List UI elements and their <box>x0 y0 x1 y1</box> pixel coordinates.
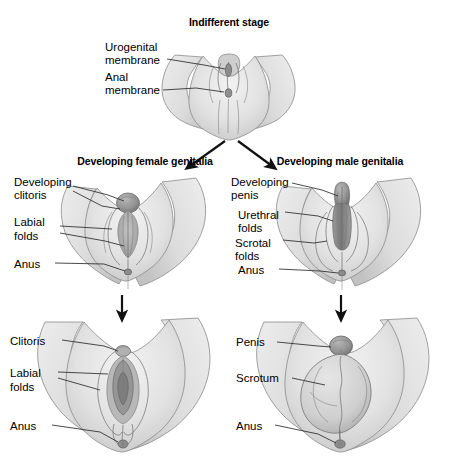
genital-development-figure: Indifferent stage <box>0 0 461 465</box>
urogenital-membrane-shape <box>225 64 231 77</box>
anus-female-mid-shape <box>124 269 131 275</box>
label-anus-female-mid: Anus <box>14 258 40 270</box>
label-scrotal-folds-line2: folds <box>235 250 260 262</box>
label-developing-clitoris-line1: Developing <box>14 176 72 188</box>
label-anus-female-bottom: Anus <box>10 420 36 432</box>
label-developing-penis-line2: penis <box>231 189 259 201</box>
panel-mature-male: Penis Scrotum Anus <box>236 318 429 452</box>
label-developing-clitoris-line2: clitoris <box>14 189 47 201</box>
anus-male-mid-shape <box>338 270 345 276</box>
label-developing-penis-line1: Developing <box>231 176 289 188</box>
label-urethral-folds-line1: Urethral <box>238 209 279 221</box>
heading-indifferent-stage: Indifferent stage <box>189 16 269 28</box>
label-urogenital-membrane-line1: Urogenital <box>105 41 157 53</box>
label-anal-membrane-line1: Anal <box>105 71 128 83</box>
label-urethral-folds-line2: folds <box>238 222 263 234</box>
label-labial-folds-mid-line2: folds <box>14 230 39 242</box>
arrow-to-male-branch <box>238 141 272 166</box>
mature-male-illustration <box>257 318 429 452</box>
label-penis: Penis <box>236 336 265 348</box>
label-anal-membrane-line2: membrane <box>105 84 160 96</box>
label-scrotum: Scrotum <box>236 372 279 384</box>
label-labial-folds-mid-line1: Labial <box>14 216 45 228</box>
progression-arrows <box>122 295 341 316</box>
mature-female-illustration <box>38 318 210 452</box>
label-anus-male-bottom: Anus <box>236 420 262 432</box>
developing-clitoris-glans <box>117 193 140 213</box>
indifferent-body-illustration <box>162 54 295 140</box>
developing-male-illustration <box>276 178 420 290</box>
anal-membrane-shape <box>225 89 232 97</box>
label-labial-folds-bottom-line1: Labial <box>10 367 41 379</box>
heading-developing-female: Developing female genitalia <box>77 155 213 167</box>
developing-female-illustration <box>61 178 205 289</box>
diagram-canvas: Indifferent stage <box>0 0 461 465</box>
panel-developing-female: Developing clitoris Labial folds Anus <box>14 176 206 289</box>
label-scrotal-folds-line1: Scrotal <box>235 237 271 249</box>
panel-developing-male: Developing penis Urethral folds Scrotal … <box>231 176 421 290</box>
label-clitoris: Clitoris <box>10 335 45 347</box>
label-anus-male-mid: Anus <box>238 264 264 276</box>
label-urogenital-membrane-line2: membrane <box>105 54 160 66</box>
label-labial-folds-bottom-line2: folds <box>10 381 35 393</box>
panel-indifferent-stage: Indifferent stage <box>105 16 295 140</box>
heading-developing-male: Developing male genitalia <box>277 155 404 167</box>
panel-mature-female: Clitoris Labial folds Anus <box>10 318 210 452</box>
